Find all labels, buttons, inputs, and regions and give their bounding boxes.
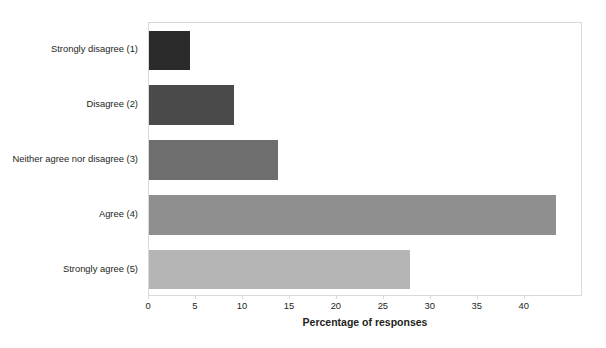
x-axis-title: Percentage of responses [148, 316, 582, 328]
x-tick-label-6: 30 [425, 300, 435, 311]
y-axis-category-labels: Strongly disagree (1)Disagree (2)Neither… [0, 22, 144, 296]
bars-layer [149, 23, 581, 295]
x-tick-label-8: 40 [519, 300, 529, 311]
x-tick-mark-3 [289, 296, 290, 299]
x-tick-mark-6 [430, 296, 431, 299]
x-tick-mark-1 [195, 296, 196, 299]
x-tick-label-1: 5 [192, 300, 197, 311]
x-tick-mark-5 [383, 296, 384, 299]
bar-3 [149, 140, 278, 179]
x-tick-mark-2 [242, 296, 243, 299]
bar-row [149, 85, 581, 124]
x-tick-label-2: 10 [237, 300, 247, 311]
category-label-2: Disagree (2) [86, 98, 138, 109]
bar-chart-figure: Strongly disagree (1)Disagree (2)Neither… [0, 0, 606, 348]
x-tick-label-4: 20 [331, 300, 341, 311]
bar-1 [149, 31, 190, 70]
chart-title [148, 0, 568, 4]
x-tick-label-5: 25 [378, 300, 388, 311]
x-tick-mark-8 [524, 296, 525, 299]
bar-4 [149, 195, 556, 234]
category-label-1: Strongly disagree (1) [51, 43, 138, 54]
category-label-5: Strongly agree (5) [63, 263, 138, 274]
x-tick-label-7: 35 [472, 300, 482, 311]
x-tick-mark-0 [148, 296, 149, 299]
category-label-4: Agree (4) [99, 208, 138, 219]
bar-5 [149, 250, 410, 289]
category-label-3: Neither agree nor disagree (3) [12, 153, 138, 164]
bar-row [149, 31, 581, 70]
plot-area [148, 22, 582, 296]
x-axis: 0510152025303540 [148, 296, 582, 316]
bar-2 [149, 85, 234, 124]
x-tick-label-3: 15 [284, 300, 294, 311]
bar-row [149, 250, 581, 289]
bar-row [149, 140, 581, 179]
x-tick-mark-4 [336, 296, 337, 299]
x-tick-label-0: 0 [145, 300, 150, 311]
x-tick-mark-7 [477, 296, 478, 299]
bar-row [149, 195, 581, 234]
